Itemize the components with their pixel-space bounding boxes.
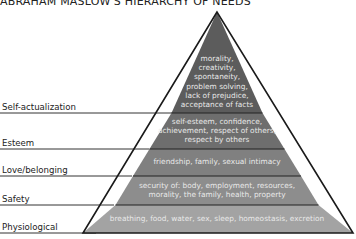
- tier-text-love-belonging: friendship, family, sexual intimacy: [147, 157, 287, 166]
- level-label-safety: Safety: [2, 194, 30, 204]
- level-label-esteem: Esteem: [2, 138, 34, 148]
- tier-text-esteem: self-esteem, confidence, achievement, re…: [157, 117, 277, 145]
- level-label-self-actualization: Self-actualization: [2, 102, 76, 112]
- tier-text-safety: security of: body, employment, resources…: [127, 181, 307, 199]
- level-label-love-belonging: Love/belonging: [2, 165, 68, 175]
- tier-text-self-actualization: morality, creativity, spontaneity, probl…: [167, 54, 267, 109]
- tier-text-physiological: breathing, food, water, sex, sleep, home…: [107, 214, 327, 223]
- level-label-physiological: Physiological: [2, 222, 58, 232]
